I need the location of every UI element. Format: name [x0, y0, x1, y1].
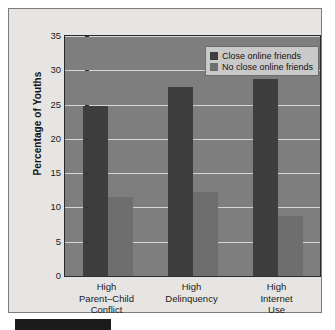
legend-swatch-icon [210, 52, 218, 60]
bar-1-0 [108, 197, 133, 276]
x-category-line: Use [232, 304, 322, 316]
x-category-line: High [62, 281, 152, 293]
y-tick-mark [85, 207, 89, 208]
caption-rule [15, 319, 111, 330]
x-category-label-1: HighDelinquency [147, 281, 237, 304]
y-tick-label: 35 [39, 31, 61, 41]
legend-label: Close online friends [222, 51, 301, 61]
y-tick-label: 0 [39, 271, 61, 281]
y-tick-mark [85, 139, 89, 140]
y-tick-label: 5 [39, 237, 61, 247]
chart-legend: Close online friendsNo close online frie… [205, 46, 319, 76]
y-tick-label: 10 [39, 202, 61, 212]
x-category-line: High [147, 281, 237, 293]
bar-1-2 [278, 216, 303, 276]
y-tick-mark [85, 276, 89, 277]
x-category-line: Conflict [62, 304, 152, 316]
x-category-label-2: HighInternetUse [232, 281, 322, 316]
y-tick-mark [85, 36, 89, 37]
x-category-line: Parent–Child [62, 293, 152, 305]
y-tick-mark [85, 105, 89, 106]
legend-item-1: No close online friends [210, 61, 313, 72]
x-category-line: Delinquency [147, 293, 237, 305]
bar-1-1 [193, 192, 218, 276]
y-axis-title: Percentage of Youths [32, 44, 43, 204]
y-tick-mark [85, 173, 89, 174]
legend-swatch-icon [210, 63, 218, 71]
gridline [65, 36, 320, 37]
legend-label: No close online friends [222, 62, 313, 72]
legend-item-0: Close online friends [210, 50, 313, 61]
figure-frame: 05101520253035 Percentage of Youths High… [8, 8, 322, 313]
bar-0-0 [83, 106, 108, 276]
x-category-label-0: HighParent–ChildConflict [62, 281, 152, 316]
bar-0-1 [168, 87, 193, 276]
x-category-line: Internet [232, 293, 322, 305]
bar-0-2 [253, 79, 278, 276]
y-tick-mark [85, 242, 89, 243]
y-tick-mark [85, 70, 89, 71]
chart-figure: 05101520253035 Percentage of Youths High… [0, 0, 335, 330]
x-category-line: High [232, 281, 322, 293]
